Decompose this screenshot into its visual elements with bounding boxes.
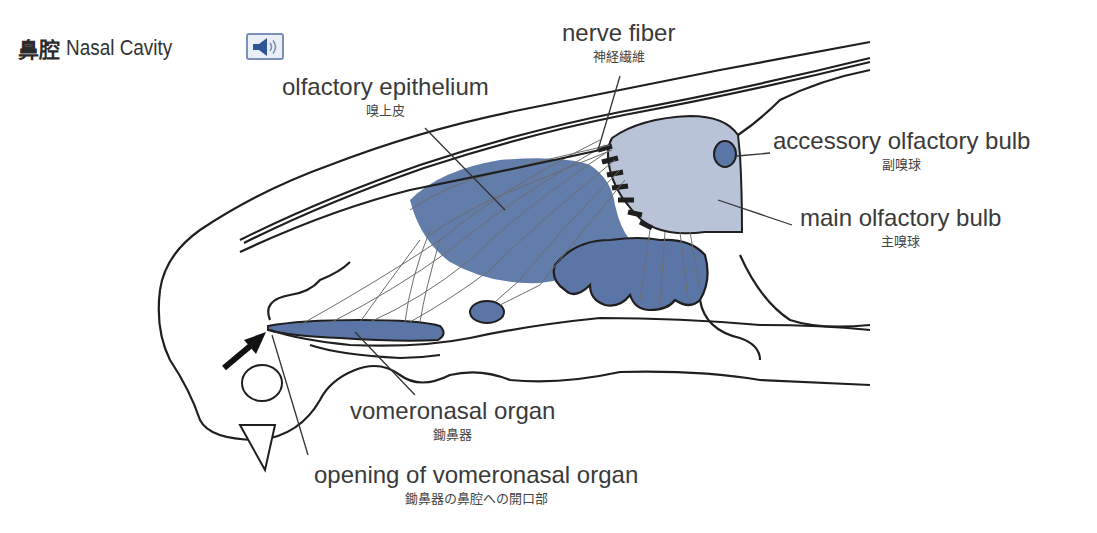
nasal-cavity-diagram	[0, 0, 1097, 533]
label-opening-of-vomeronasal-organ: opening of vomeronasal organ 鋤鼻器の鼻腔への開口部	[314, 462, 638, 508]
label-accessory-olfactory-bulb: accessory olfactory bulb 副嗅球	[773, 128, 1030, 174]
small-blue-ellipse	[470, 301, 504, 323]
main-olfactory-bulb-shape	[608, 116, 742, 233]
arrow-icon	[224, 332, 266, 368]
nostril-ring	[242, 365, 282, 401]
tooth	[240, 425, 275, 470]
label-olfactory-epithelium: olfactory epithelium 嗅上皮	[282, 74, 489, 120]
accessory-olfactory-bulb-shape	[714, 141, 736, 167]
label-main-olfactory-bulb: main olfactory bulb 主嗅球	[800, 205, 1001, 251]
label-nerve-fiber: nerve fiber 神経繊維	[562, 20, 675, 66]
label-vomeronasal-organ: vomeronasal organ 鋤鼻器	[350, 398, 555, 444]
